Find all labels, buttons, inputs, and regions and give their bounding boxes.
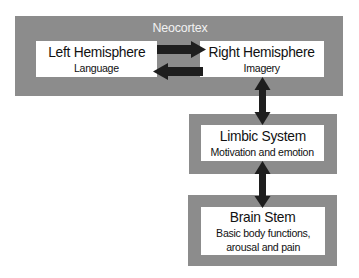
right-hemisphere-box: Right Hemisphere Imagery [200,41,324,77]
brain-stem-subtitle-line1: Basic body functions, [216,226,310,240]
brain-stem-title: Brain Stem [230,208,296,226]
limbic-system-title: Limbic System [219,127,305,145]
neocortex-label: Neocortex [152,20,207,35]
brain-stem-inner: Brain Stem Basic body functions, arousal… [201,207,325,255]
left-hemisphere-title: Left Hemisphere [48,43,145,61]
right-hemisphere-title: Right Hemisphere [209,43,315,61]
left-hemisphere-box: Left Hemisphere Language [36,41,157,77]
brain-stem-subtitle-line2: arousal and pain [226,240,300,254]
limbic-system-inner: Limbic System Motivation and emotion [201,125,324,161]
right-hemisphere-subtitle: Imagery [244,61,280,75]
limbic-system-subtitle: Motivation and emotion [211,145,314,159]
left-hemisphere-subtitle: Language [74,61,119,75]
